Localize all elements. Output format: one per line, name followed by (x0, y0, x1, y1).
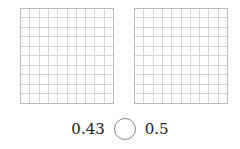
right-value: 0.5 (145, 120, 169, 138)
hundred-grid-right (134, 8, 228, 104)
comparison-symbol-blank[interactable] (114, 118, 136, 140)
comparison-row: 0.43 0.5 (0, 115, 240, 143)
left-value: 0.43 (71, 120, 104, 138)
hundred-grid-left (20, 8, 114, 104)
